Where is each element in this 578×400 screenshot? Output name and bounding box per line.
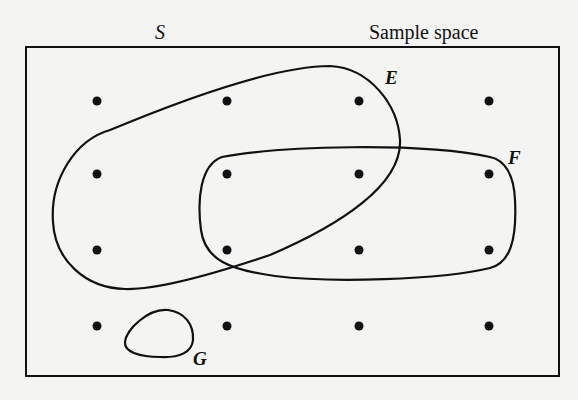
sample-point — [355, 97, 364, 106]
sample-point — [223, 322, 232, 331]
sample-point — [223, 246, 232, 255]
sample-point — [355, 322, 364, 331]
set-g-label: G — [193, 349, 207, 368]
sample-point — [485, 322, 494, 331]
set-f-label: F — [508, 148, 521, 167]
set-f-boundary — [199, 147, 515, 280]
sample-point — [93, 170, 102, 179]
set-e-label: E — [385, 68, 398, 87]
diagram-canvas — [0, 0, 578, 400]
venn-diagram: S Sample space E F G — [0, 0, 578, 400]
sample-point — [223, 170, 232, 179]
sample-space-rectangle — [26, 47, 559, 376]
sample-point — [93, 97, 102, 106]
universe-label: S — [155, 22, 165, 42]
sample-space-caption: Sample space — [369, 22, 478, 42]
sample-points — [93, 97, 494, 331]
sample-point — [223, 97, 232, 106]
sample-point — [485, 246, 494, 255]
sample-point — [485, 97, 494, 106]
sample-point — [93, 246, 102, 255]
sample-point — [355, 170, 364, 179]
set-g-boundary — [125, 310, 193, 357]
sample-point — [93, 322, 102, 331]
sample-point — [485, 170, 494, 179]
sample-point — [355, 246, 364, 255]
